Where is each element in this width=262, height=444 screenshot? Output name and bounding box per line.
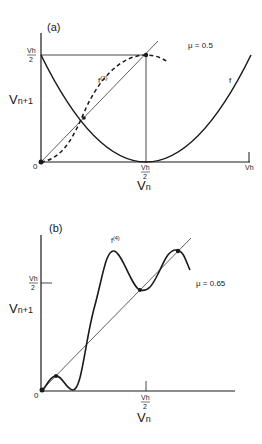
panel-b: (b) f(4) μ = 0.65 Vn+1 Vn 0 Vh 2 Vh 2	[9, 222, 235, 425]
x-tick-end-label: Vh	[245, 164, 254, 171]
x-tick-half-den: 2	[143, 173, 147, 180]
curve-f-label: f	[229, 76, 232, 85]
curve-f2-label: f(2)	[98, 75, 108, 85]
x-tick-half-num: Vh	[141, 394, 150, 401]
panel-b-label: (b)	[49, 222, 62, 234]
panel-a: (a) μ = 0.5 f f(2) Vn+1 Vn 0 Vh 2 Vh 2 V…	[9, 21, 254, 193]
fixed-point-origin	[40, 388, 45, 393]
fixed-point-high	[176, 249, 180, 253]
curve-f4-label: f(4)	[111, 235, 120, 244]
y-axis-label: Vn+1	[9, 92, 33, 107]
x-tick-half-den: 2	[143, 403, 147, 410]
identity-line	[41, 41, 158, 162]
origin-label: 0	[34, 391, 39, 400]
figure: (a) μ = 0.5 f f(2) Vn+1 Vn 0 Vh 2 Vh 2 V…	[0, 0, 262, 444]
x-tick-half-num: Vh	[141, 164, 150, 171]
fixed-point-low	[54, 374, 58, 378]
panel-a-label: (a)	[47, 21, 60, 33]
fixed-point-origin	[39, 160, 44, 165]
origin-label: 0	[33, 162, 38, 171]
y-axis-label: Vn+1	[9, 301, 33, 316]
y-tick-half-num: Vh	[27, 47, 36, 54]
mu-label: μ = 0.65	[196, 279, 226, 288]
fixed-point-top	[144, 53, 148, 57]
y-tick-half-den: 2	[31, 284, 35, 291]
mu-label: μ = 0.5	[188, 41, 213, 50]
identity-line	[41, 238, 191, 391]
y-tick-half-den: 2	[29, 56, 33, 63]
fixed-point-mid	[82, 116, 86, 120]
x-axis-label: Vn	[137, 178, 151, 193]
y-tick-half-num: Vh	[29, 275, 38, 282]
curve-f4	[41, 250, 190, 391]
x-axis-label: Vn	[137, 410, 151, 425]
fixed-point-mid	[138, 288, 142, 292]
